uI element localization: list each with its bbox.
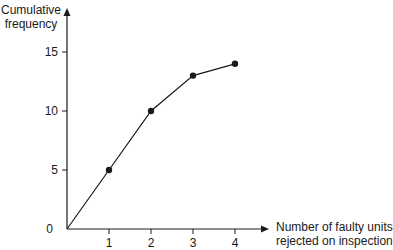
x-tick-label: 3 — [190, 236, 197, 250]
y-tick-label: 0 — [46, 222, 53, 236]
y-ticks: 051015 — [45, 45, 67, 236]
x-tick-label: 4 — [232, 236, 239, 250]
y-axis-arrow-icon — [64, 8, 71, 16]
x-tick-label: 2 — [148, 236, 155, 250]
y-tick-label: 15 — [45, 45, 59, 59]
data-point-marker — [190, 72, 196, 78]
data-point-marker — [148, 108, 154, 114]
series-line — [67, 64, 235, 229]
data-point-marker — [106, 167, 112, 173]
x-ticks: 1234 — [106, 229, 239, 250]
x-axis-arrow-icon — [261, 226, 269, 233]
y-tick-label: 5 — [51, 163, 58, 177]
data-points — [106, 61, 238, 174]
y-tick-label: 10 — [45, 104, 59, 118]
x-tick-label: 1 — [106, 236, 113, 250]
data-point-marker — [232, 61, 238, 67]
